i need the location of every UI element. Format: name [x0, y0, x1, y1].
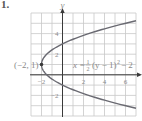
x-axis-arrow-icon	[137, 73, 142, 77]
equation-frac-den: 2	[87, 66, 90, 72]
y-tick-label: −2	[51, 92, 59, 100]
x-tick-label: −2	[38, 78, 46, 86]
vertex-label: (−2, 1)	[14, 60, 39, 70]
x-tick-label: 2	[82, 78, 86, 86]
y-tick-label: 4	[55, 30, 59, 38]
x-tick-label: 4	[103, 78, 107, 86]
y-axis-label: y	[60, 0, 65, 10]
equation-exponent: 2	[117, 59, 120, 65]
equation-tail: − 2	[121, 60, 133, 70]
y-tick-label: 2	[55, 51, 59, 59]
x-tick-label: 6	[124, 78, 128, 86]
equation-rhs: (y − 1)	[92, 60, 117, 70]
parabola-graph: y −224642−2 (−2, 1)x =12(y − 1)2− 2	[0, 0, 142, 121]
equation-frac-num: 1	[87, 59, 90, 65]
annotations: (−2, 1)x =12(y − 1)2− 2	[14, 59, 133, 73]
vertex-point-icon	[40, 63, 44, 67]
equation-lhs: x =	[72, 60, 85, 70]
